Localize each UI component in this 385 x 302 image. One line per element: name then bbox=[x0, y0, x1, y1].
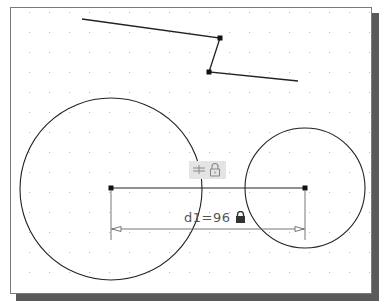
grid-dot bbox=[29, 92, 30, 93]
grid-dot bbox=[109, 212, 110, 213]
grid-dot bbox=[289, 252, 290, 253]
sketch-polyline[interactable] bbox=[82, 19, 298, 81]
vertex-grip[interactable] bbox=[218, 36, 223, 41]
grid-dot bbox=[369, 152, 370, 153]
grid-dot bbox=[269, 192, 270, 193]
grid-dot bbox=[269, 32, 270, 33]
grid-dot bbox=[109, 172, 110, 173]
grid-dot bbox=[269, 132, 270, 133]
grid-dot bbox=[89, 72, 90, 73]
grid-dot bbox=[169, 92, 170, 93]
grid-dot bbox=[229, 32, 230, 33]
grid-dot bbox=[189, 32, 190, 33]
grid-dot bbox=[349, 112, 350, 113]
grid-dot bbox=[169, 152, 170, 153]
grid-dot bbox=[29, 52, 30, 53]
grid-dot bbox=[209, 112, 210, 113]
grid-dot bbox=[229, 252, 230, 253]
grid-dot bbox=[109, 152, 110, 153]
grid-dot bbox=[149, 172, 150, 173]
grid-dot bbox=[169, 232, 170, 233]
grid-dot bbox=[29, 212, 30, 213]
grid-dot bbox=[329, 32, 330, 33]
grid-dot bbox=[229, 92, 230, 93]
grid-dot bbox=[169, 212, 170, 213]
sketch-drawing[interactable] bbox=[0, 0, 385, 302]
grid-dot bbox=[229, 12, 230, 13]
grid-dot bbox=[189, 192, 190, 193]
grid-dot bbox=[189, 132, 190, 133]
grid-dot bbox=[309, 32, 310, 33]
grid-dot bbox=[49, 92, 50, 93]
grid-dot bbox=[369, 92, 370, 93]
grid-dot bbox=[49, 212, 50, 213]
vertex-grip[interactable] bbox=[207, 70, 212, 75]
grid-dot bbox=[209, 92, 210, 93]
grid-dot bbox=[289, 232, 290, 233]
grid-dot bbox=[149, 112, 150, 113]
grid-dot bbox=[129, 152, 130, 153]
grid-dot bbox=[189, 72, 190, 73]
grid-dot bbox=[189, 252, 190, 253]
grid-dot bbox=[349, 72, 350, 73]
grid-dot bbox=[149, 252, 150, 253]
grid-dot bbox=[49, 172, 50, 173]
grid-dot bbox=[49, 152, 50, 153]
grid-dot bbox=[109, 252, 110, 253]
grid-dot bbox=[149, 32, 150, 33]
grid-dot bbox=[149, 132, 150, 133]
grid-dot bbox=[189, 272, 190, 273]
grid-dot bbox=[289, 52, 290, 53]
left-center-grip[interactable] bbox=[109, 186, 114, 191]
grid-dot bbox=[209, 152, 210, 153]
grid-dot bbox=[249, 192, 250, 193]
grid-dot bbox=[169, 132, 170, 133]
grid-dot bbox=[349, 172, 350, 173]
grid-dot bbox=[209, 132, 210, 133]
grid-dot bbox=[329, 232, 330, 233]
grid-dot bbox=[349, 12, 350, 13]
grid-dot bbox=[89, 252, 90, 253]
constraint-badge[interactable] bbox=[189, 161, 226, 179]
dimension-value-text: d1=96 bbox=[184, 210, 230, 225]
grid-dot bbox=[349, 52, 350, 53]
grid-dot bbox=[229, 52, 230, 53]
grid-dot bbox=[269, 52, 270, 53]
grid-dot bbox=[309, 72, 310, 73]
dimension-label[interactable]: d1=96 bbox=[184, 210, 246, 226]
grid-dot bbox=[69, 232, 70, 233]
dimension-lock-icon bbox=[235, 211, 246, 223]
grid-dot bbox=[169, 52, 170, 53]
grid-dot bbox=[289, 12, 290, 13]
grid-dot bbox=[189, 232, 190, 233]
grid-dot bbox=[289, 92, 290, 93]
grid-dot bbox=[49, 272, 50, 273]
grid-dot bbox=[209, 272, 210, 273]
grid-dot bbox=[329, 192, 330, 193]
grid-dot bbox=[229, 232, 230, 233]
grid-dot bbox=[29, 32, 30, 33]
grid-dot bbox=[89, 232, 90, 233]
grid-dot bbox=[369, 72, 370, 73]
arrow-right-icon bbox=[295, 227, 304, 232]
grid-dot bbox=[49, 252, 50, 253]
grid-dot bbox=[229, 172, 230, 173]
grid-dot bbox=[169, 192, 170, 193]
arrow-left-icon bbox=[112, 227, 121, 232]
grid-dot bbox=[109, 112, 110, 113]
grid-dot bbox=[69, 32, 70, 33]
grid-dot bbox=[289, 192, 290, 193]
right-center-grip[interactable] bbox=[303, 186, 308, 191]
grid-dot bbox=[69, 212, 70, 213]
grid-dot bbox=[309, 152, 310, 153]
grid-dot bbox=[29, 192, 30, 193]
grid-dot bbox=[369, 132, 370, 133]
grid-dots bbox=[29, 12, 370, 273]
grid-dot bbox=[29, 72, 30, 73]
grid-dot bbox=[309, 112, 310, 113]
grid-dot bbox=[309, 92, 310, 93]
grid-dot bbox=[29, 152, 30, 153]
grid-dot bbox=[109, 272, 110, 273]
grid-dot bbox=[249, 232, 250, 233]
grid-dot bbox=[269, 252, 270, 253]
